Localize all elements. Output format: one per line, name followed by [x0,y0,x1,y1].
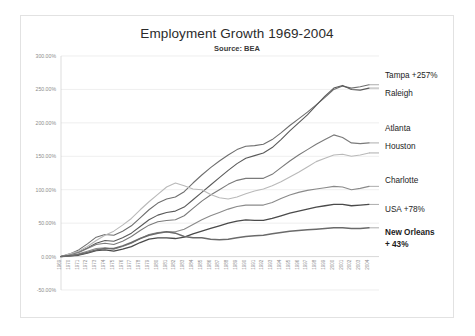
x-axis-tick-label: 1978 [136,259,141,270]
x-axis-tick-label: 1971 [75,259,80,270]
x-axis-tick-label: 1987 [215,259,220,270]
x-axis-tick-label: 1970 [66,259,71,270]
y-axis-tick-label: 150.00% [36,153,57,159]
x-axis-tick-label: 1988 [224,259,229,270]
x-axis-tick-label: 1976 [119,259,124,270]
x-axis-tick-label: 2002 [347,259,352,270]
x-axis-tick-label: 1991 [251,259,256,270]
x-axis-tick-label: 1996 [295,259,300,270]
x-axis-tick-label: 1997 [303,259,308,270]
x-axis-tick-label: 1974 [101,259,106,270]
x-axis-tick-label: 1999 [321,259,326,270]
series-line-new-orleans [61,228,369,257]
series-label-atlanta: Atlanta [385,124,411,133]
x-axis-tick-label: 1969 [57,259,62,270]
x-axis-tick-label: 1994 [277,259,282,270]
x-axis-tick-label: 1980 [154,259,159,270]
y-axis-tick-label: 50.00% [38,220,56,226]
x-axis-tick-label: 1984 [189,259,194,270]
series-label-houston: Houston [385,142,416,151]
x-axis-tick-label: 1998 [312,259,317,270]
y-axis-tick-label: -50.00% [37,287,57,293]
y-axis-tick-label: 300.00% [36,53,57,59]
series-line-charlotte [61,186,369,256]
series-label-tampa: Tampa +257% [385,71,438,80]
x-axis-tick-label: 1990 [242,259,247,270]
x-axis-tick-label: 1986 [207,259,212,270]
x-axis-tick-label: 1983 [180,259,185,270]
y-axis-tick-label: 200.00% [36,120,57,126]
x-axis-tick-label: 1985 [198,259,203,270]
y-axis-tick-label: 0.00% [41,254,56,260]
x-axis-tick-label: 1975 [110,259,115,270]
x-axis-tick-label: 1992 [259,259,264,270]
x-axis-tick-label: 1979 [145,259,150,270]
x-axis-tick-label: 1995 [286,259,291,270]
series-label-new-orleans-pct: + 43% [385,240,409,249]
line-chart-plot: 300.00%250.00%200.00%150.00%100.00%50.00… [21,16,455,319]
x-axis-tick-label: 1993 [268,259,273,270]
x-axis-tick-label: 2004 [365,259,370,270]
chart-frame: Employment Growth 1969-2004 Source: BEA … [20,15,454,318]
x-axis-tick-label: 1973 [92,259,97,270]
x-axis-tick-label: 1977 [127,259,132,270]
series-line-tampa [61,85,369,257]
x-axis-tick-label: 1972 [83,259,88,270]
x-axis-tick-label: 2003 [356,259,361,270]
y-axis-tick-label: 100.00% [36,187,57,193]
x-axis-tick-label: 2001 [339,259,344,270]
x-axis-tick-label: 1982 [171,259,176,270]
y-axis-tick-label: 250.00% [36,86,57,92]
series-line-raleigh [61,85,369,256]
series-label-new-orleans: New Orleans [385,228,435,237]
x-axis-tick-label: 1981 [163,259,168,270]
series-label-raleigh: Raleigh [385,89,413,98]
series-label-charlotte: Charlotte [385,176,419,185]
x-axis-tick-label: 1989 [233,259,238,270]
series-label-usa: USA +78% [385,205,425,214]
x-axis-tick-label: 2000 [330,259,335,270]
